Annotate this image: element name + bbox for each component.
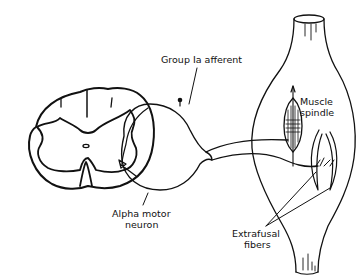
ia-afferent-axon	[206, 140, 288, 153]
group-ia-leader-line	[189, 68, 197, 104]
label-alpha-motor-neuron-line1: Alpha motor	[112, 208, 171, 219]
extrafusal-leader-line-1	[266, 172, 316, 226]
alpha-motor-axon	[212, 154, 318, 167]
neuron-dendrite-into-cord	[122, 108, 148, 164]
central-canal	[83, 144, 89, 147]
extrafusal-leader-line-2	[266, 188, 330, 226]
muscle-bottom-striations	[303, 254, 315, 271]
label-extrafusal-fibers-line2: fibers	[244, 239, 271, 250]
spinal-cord-cross-section	[29, 88, 154, 189]
alpha-motor-leader-line	[143, 193, 148, 205]
stretch-reflex-diagram: Group Ia afferent Muscle spindle Alpha m…	[0, 0, 360, 279]
spinal-cord-outline	[29, 88, 154, 189]
muscle-top-striations	[305, 24, 316, 40]
label-alpha-motor-neuron-line2: neuron	[125, 219, 158, 230]
muscle-outline-right	[318, 19, 355, 272]
diagram-canvas	[0, 0, 360, 279]
label-extrafusal-fibers-line1: Extrafusal	[232, 228, 280, 239]
motor-endplate-branches	[316, 158, 334, 166]
muscle-top-tendon	[294, 15, 324, 23]
label-muscle-spindle-line1: Muscle	[300, 96, 333, 107]
muscle-bottom-tendon	[296, 272, 318, 274]
extrafusal-fiber-2	[326, 132, 337, 190]
extrafusal-fibers	[311, 130, 336, 190]
dorsal-fissure-right	[111, 98, 112, 107]
label-muscle-spindle-line2: spindle	[300, 107, 334, 118]
label-group-ia-afferent: Group Ia afferent	[161, 54, 242, 65]
